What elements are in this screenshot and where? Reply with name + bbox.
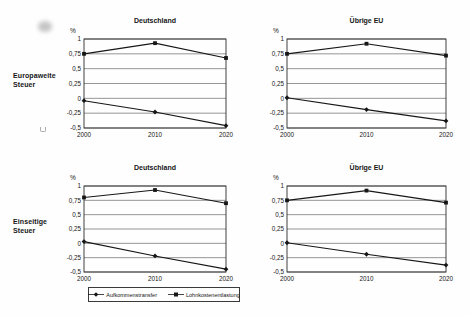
square-marker <box>285 52 289 56</box>
diamond-marker <box>444 118 449 123</box>
chart-legend: Aufkommenstransfer Lohnkostenentlastung <box>88 287 240 302</box>
legend-label: Lohnkostenentlastung <box>186 292 240 298</box>
figure-canvas: Europaweite Steuer Einseitige Steuer Deu… <box>0 0 470 316</box>
x-tick-label: 2010 <box>148 131 163 138</box>
chart-title: Übrige EU <box>350 163 384 172</box>
square-marker <box>365 42 369 46</box>
chart-panel-1: Übrige EU%10,750,50,250-0,25-0,520002010… <box>270 16 454 138</box>
chart-title: Deutschland <box>134 17 176 24</box>
y-axis-unit-label: % <box>70 27 76 34</box>
square-marker <box>82 52 86 56</box>
y-tick-label: 0,5 <box>72 211 81 218</box>
square-marker <box>153 41 157 45</box>
square-marker <box>82 196 86 200</box>
square-marker <box>285 198 289 202</box>
y-tick-label: -0,25 <box>67 109 82 116</box>
chart-panel-3: Übrige EU%10,750,50,250-0,25-0,520002010… <box>270 163 454 282</box>
x-tick-label: 2020 <box>439 275 454 282</box>
y-axis-unit-label: % <box>273 27 279 34</box>
diamond-marker <box>285 95 290 100</box>
series-line-square <box>84 190 226 203</box>
x-tick-label: 2010 <box>359 131 374 138</box>
square-marker <box>224 201 228 205</box>
diamond-marker <box>364 252 369 257</box>
y-tick-label: 1 <box>77 35 81 42</box>
diamond-marker <box>224 123 229 128</box>
y-tick-label: 0 <box>77 95 81 102</box>
chart-title: Übrige EU <box>350 16 384 25</box>
y-tick-label: 0,5 <box>275 211 284 218</box>
y-tick-label: -0,25 <box>270 254 285 261</box>
diamond-marker <box>364 107 369 112</box>
series-line-square <box>84 43 226 58</box>
y-tick-label: 0,25 <box>272 225 285 232</box>
x-tick-label: 2010 <box>148 275 163 282</box>
y-tick-label: 1 <box>280 182 284 189</box>
square-line-marker-icon <box>168 291 184 298</box>
x-tick-label: 2000 <box>77 275 92 282</box>
line-charts-grid: Deutschland%10,750,50,250-0,25-0,5200020… <box>0 0 470 316</box>
diamond-marker <box>224 267 229 272</box>
x-tick-label: 2020 <box>219 275 234 282</box>
square-marker <box>153 188 157 192</box>
chart-panel-2: Deutschland%10,750,50,250-0,25-0,5200020… <box>67 164 234 282</box>
square-marker <box>444 54 448 58</box>
y-tick-label: 1 <box>77 182 81 189</box>
chart-title: Deutschland <box>134 164 176 171</box>
diamond-marker <box>82 98 87 103</box>
y-axis-unit-label: % <box>273 174 279 181</box>
x-tick-label: 2020 <box>219 131 234 138</box>
legend-label: Aufkommenstransfer <box>106 292 157 298</box>
y-tick-label: 0,75 <box>69 197 82 204</box>
y-tick-label: 0 <box>280 95 284 102</box>
y-tick-label: 0,5 <box>275 65 284 72</box>
x-tick-label: 2010 <box>359 275 374 282</box>
y-tick-label: -0,25 <box>67 254 82 261</box>
square-marker <box>365 189 369 193</box>
x-tick-label: 2020 <box>439 131 454 138</box>
y-tick-label: 0,5 <box>72 65 81 72</box>
x-tick-label: 2000 <box>77 131 92 138</box>
legend-item-lohnkostenentlastung: Lohnkostenentlastung <box>168 291 240 298</box>
y-tick-label: 1 <box>280 35 284 42</box>
y-tick-label: 0,75 <box>272 50 285 57</box>
diamond-line-marker-icon <box>88 291 104 298</box>
diamond-marker <box>285 240 290 245</box>
chart-panel-0: Deutschland%10,750,50,250-0,25-0,5200020… <box>67 17 234 138</box>
y-tick-label: -0,25 <box>270 109 285 116</box>
x-tick-label: 2000 <box>280 275 295 282</box>
square-marker <box>224 56 228 60</box>
y-tick-label: 0,25 <box>272 80 285 87</box>
square-marker <box>444 201 448 205</box>
y-tick-label: 0,75 <box>272 197 285 204</box>
y-tick-label: 0 <box>77 240 81 247</box>
y-tick-label: 0,25 <box>69 80 82 87</box>
legend-item-aufkommenstransfer: Aufkommenstransfer <box>88 291 157 298</box>
y-tick-label: 0 <box>280 240 284 247</box>
y-axis-unit-label: % <box>70 174 76 181</box>
diamond-marker <box>153 110 158 115</box>
y-tick-label: 0,75 <box>69 50 82 57</box>
diamond-marker <box>444 263 449 268</box>
x-tick-label: 2000 <box>280 131 295 138</box>
y-tick-label: 0,25 <box>69 225 82 232</box>
